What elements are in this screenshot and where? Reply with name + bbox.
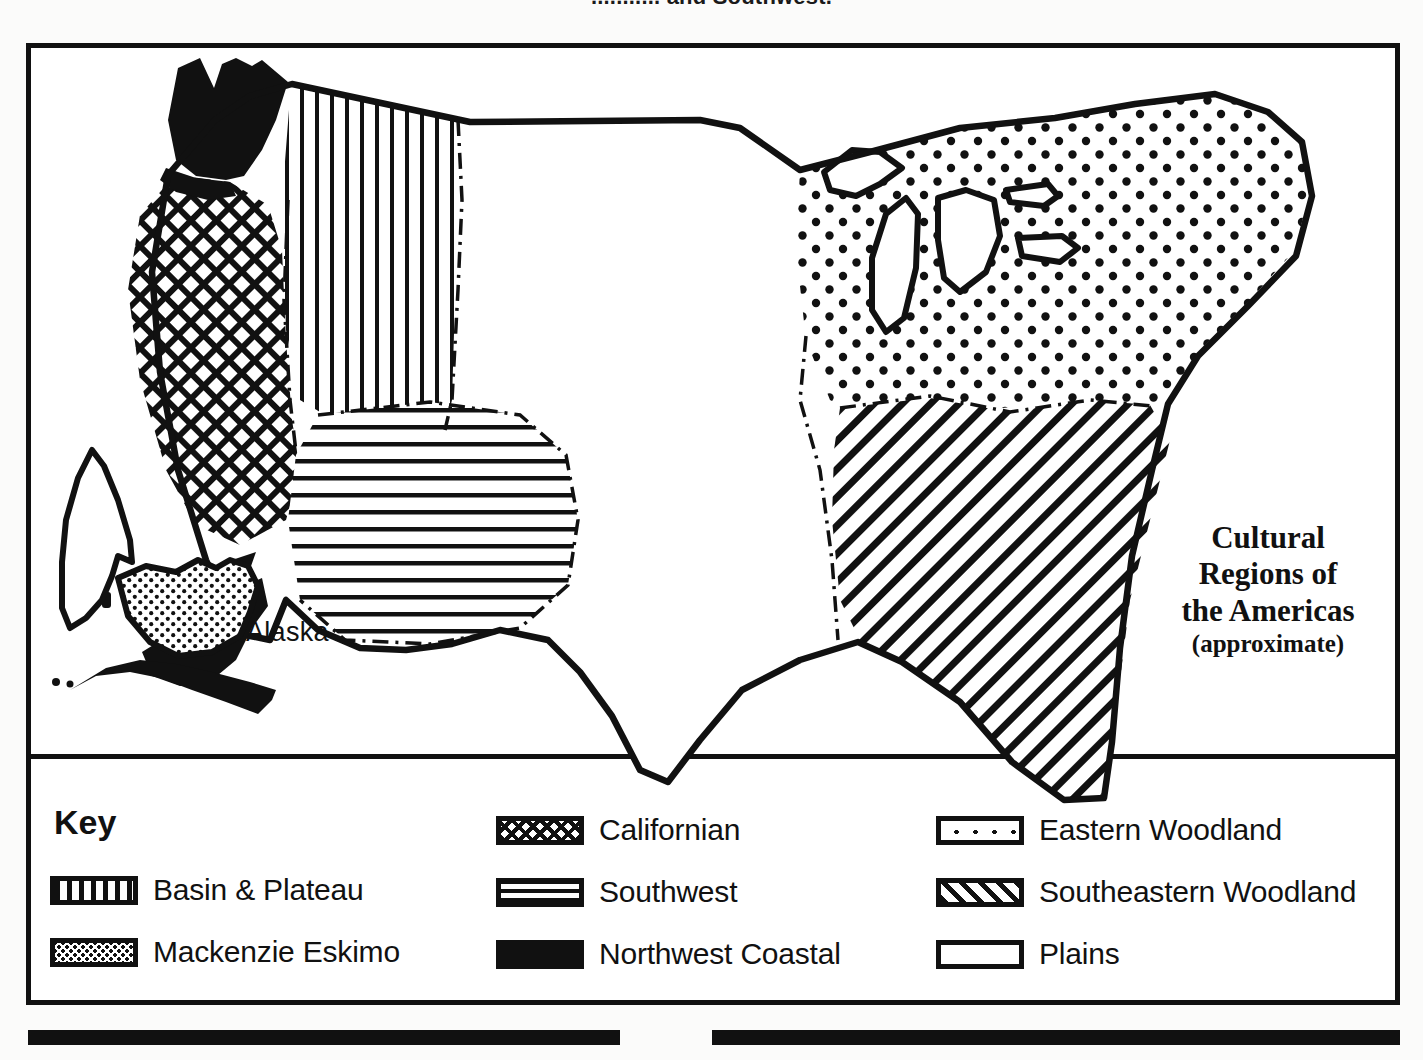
sparse-dots-swatch-icon — [936, 816, 1024, 845]
scanned-page: ........... and Southwest. — [0, 0, 1423, 1060]
key-item-label: Southeastern Woodland — [1039, 875, 1356, 909]
map-title-approximate: (approximate) — [1148, 629, 1388, 658]
key-item-basin-plateau[interactable]: Basin & Plateau — [50, 859, 400, 921]
key-item-southeastern-woodland[interactable]: Southeastern Woodland — [936, 861, 1356, 923]
key-column-1: Basin & Plateau Mackenzie Eskimo — [50, 859, 400, 983]
key-item-californian[interactable]: Californian — [496, 799, 841, 861]
key-item-label: Southwest — [599, 875, 737, 909]
key-item-label: Californian — [599, 813, 740, 847]
key-item-label: Northwest Coastal — [599, 937, 841, 971]
dense-dots-swatch-icon — [50, 938, 138, 967]
map-title-line-3: the Americas — [1148, 593, 1388, 629]
vertical-lines-swatch-icon — [50, 876, 138, 905]
bottom-rule-right — [712, 1030, 1400, 1045]
key-title: Key — [54, 803, 116, 842]
map-title-block: Cultural Regions of the Americas (approx… — [1148, 520, 1388, 658]
diagonal-lines-swatch-icon — [936, 878, 1024, 907]
key-item-label: Plains — [1039, 937, 1120, 971]
horizontal-lines-swatch-icon — [496, 878, 584, 907]
key-item-label: Basin & Plateau — [153, 873, 363, 907]
bottom-rule-left — [28, 1030, 620, 1045]
key-item-southwest[interactable]: Southwest — [496, 861, 841, 923]
key-item-northwest-coastal[interactable]: Northwest Coastal — [496, 923, 841, 985]
alaska-label: Alaska — [246, 617, 329, 648]
key-item-plains[interactable]: Plains — [936, 923, 1356, 985]
blank-swatch-icon — [936, 940, 1024, 969]
solid-black-swatch-icon — [496, 940, 584, 969]
key-item-label: Mackenzie Eskimo — [153, 935, 400, 969]
map-key: Key Basin & Plateau Mackenzie Eskimo Cal… — [26, 759, 1400, 1005]
key-column-3: Eastern Woodland Southeastern Woodland P… — [936, 799, 1356, 985]
cut-off-header-text: ........... and Southwest. — [0, 0, 1423, 4]
key-column-2: Californian Southwest Northwest Coastal — [496, 799, 841, 985]
key-item-mackenzie-eskimo[interactable]: Mackenzie Eskimo — [50, 921, 400, 983]
key-item-label: Eastern Woodland — [1039, 813, 1282, 847]
key-item-eastern-woodland[interactable]: Eastern Woodland — [936, 799, 1356, 861]
map-title-line-1: Cultural — [1148, 520, 1388, 556]
crosshatch-swatch-icon — [496, 816, 584, 845]
map-title-line-2: Regions of — [1148, 556, 1388, 592]
